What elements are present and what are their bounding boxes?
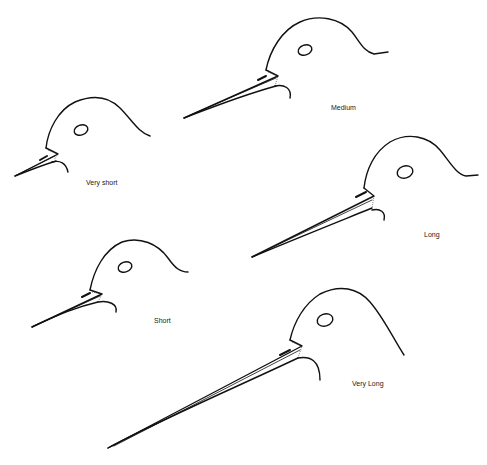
bird-head-short (32, 240, 188, 327)
clipped-caption (18, 460, 138, 465)
upper-mandible (32, 290, 102, 327)
upper-mandible (252, 188, 374, 257)
chin-curve (52, 161, 68, 172)
label-very-long: Very Long (352, 380, 384, 387)
bill-midline (17, 156, 55, 175)
bill-midline (114, 350, 300, 446)
head-outline (266, 18, 388, 70)
nostril-icon (82, 293, 90, 297)
label-very-short: Very short (86, 179, 118, 186)
lower-mandible (32, 302, 98, 327)
eye-icon (117, 260, 134, 274)
bird-head-very-long (108, 288, 404, 448)
head-outline (90, 240, 188, 290)
bird-head-long (252, 136, 478, 257)
eye-icon (315, 312, 334, 329)
bill-midline (256, 200, 372, 255)
head-outline (46, 98, 150, 148)
lower-mandible (252, 208, 372, 257)
head-outline (364, 136, 478, 188)
label-long: Long (424, 231, 440, 238)
nostril-icon (356, 192, 366, 197)
eye-icon (395, 164, 414, 181)
label-medium: Medium (331, 104, 356, 111)
bill-midline (188, 78, 276, 116)
bird-head-very-short (15, 98, 150, 176)
chin-curve (98, 301, 116, 312)
nostril-icon (258, 76, 266, 80)
chin-curve (275, 86, 290, 99)
bird-heads-illustration (0, 0, 487, 465)
eye-icon (297, 43, 314, 57)
label-short: Short (154, 317, 171, 324)
head-outline (290, 288, 404, 355)
chin-curve (298, 358, 320, 380)
lower-mandible (184, 86, 276, 118)
lower-mandible (15, 161, 56, 176)
upper-mandible (108, 340, 302, 448)
bill-midline (36, 296, 100, 325)
eye-icon (73, 123, 90, 137)
bird-bill-length-figure: Very short Medium Long Short Very Long (0, 0, 487, 465)
bird-head-medium (184, 18, 388, 118)
chin-curve (372, 209, 384, 220)
